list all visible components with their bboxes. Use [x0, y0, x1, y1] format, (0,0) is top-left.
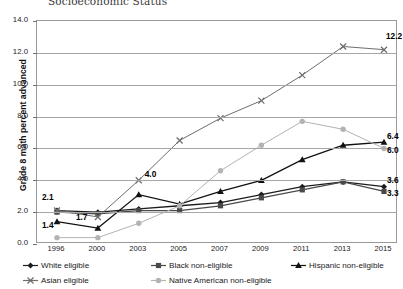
y-axis-ticks: 14.012.010.08.06.04.02.00.0 — [2, 0, 28, 289]
legend-label: Asian eligible — [39, 276, 89, 285]
data-value-label: 4.0 — [145, 169, 157, 179]
x-tick-label: 2000 — [75, 244, 119, 253]
triangle-marker — [54, 218, 61, 224]
series-white-eligible — [54, 179, 387, 215]
plot-area — [36, 20, 397, 243]
legend-label: Black non-eligible — [167, 261, 232, 270]
y-tick-label: 2.0 — [2, 206, 28, 215]
x-icon — [22, 275, 39, 286]
data-value-label: 1.4 — [42, 220, 54, 230]
circle-marker — [177, 203, 182, 208]
gridline — [37, 212, 396, 213]
square-marker — [259, 195, 264, 200]
x-tick-label: 2003 — [116, 244, 160, 253]
data-value-label: 3.6 — [387, 175, 399, 185]
triangle-marker — [135, 191, 142, 197]
diamond-icon — [22, 260, 39, 271]
square-marker — [156, 262, 161, 267]
legend-label: Native American non-eligible — [167, 276, 272, 285]
gridline — [37, 85, 396, 86]
x-axis-ticks: 199620002003200520072009201120132015 — [36, 244, 397, 258]
square-marker — [300, 187, 305, 192]
x-marker — [258, 98, 264, 104]
x-tick-label: 2007 — [198, 244, 242, 253]
x-tick-label: 2013 — [320, 244, 364, 253]
y-tick-label: 4.0 — [2, 174, 28, 183]
y-tick-label: 12.0 — [2, 47, 28, 56]
circle-marker — [259, 143, 264, 148]
x-tick-label: 2009 — [238, 244, 282, 253]
diamond-marker — [28, 262, 34, 268]
series-layer — [37, 21, 398, 244]
chart-root: Socioeconomic Status Grade 8 math percen… — [0, 0, 403, 289]
y-tickmark — [33, 21, 37, 22]
legend-item-black-non-eligible[interactable]: Black non-eligible — [150, 259, 232, 271]
data-value-label: 12.2 — [386, 31, 402, 41]
y-tick-label: 14.0 — [2, 15, 28, 24]
triangle-icon — [290, 260, 307, 271]
chart-legend: White eligibleBlack non-eligibleHispanic… — [0, 259, 403, 289]
x-tick-label: 2011 — [279, 244, 323, 253]
circle-marker — [95, 235, 100, 240]
circle-marker — [218, 168, 223, 173]
y-tick-label: 8.0 — [2, 111, 28, 120]
circle-icon — [150, 275, 167, 286]
x-tick-label: 1996 — [34, 244, 78, 253]
x-marker — [299, 72, 305, 78]
y-tickmark — [33, 180, 37, 181]
circle-marker — [300, 119, 305, 124]
y-tick-label: 6.0 — [2, 142, 28, 151]
circle-marker — [136, 221, 141, 226]
legend-item-native-american-non-eligible[interactable]: Native American non-eligible — [150, 274, 272, 286]
data-value-label: 2.1 — [42, 192, 54, 202]
legend-item-hispanic-non-eligible[interactable]: Hispanic non-eligible — [290, 259, 384, 271]
series-hispanic-non-eligible — [54, 139, 388, 231]
y-tick-label: 0.0 — [2, 238, 28, 247]
circle-marker — [340, 127, 345, 132]
data-value-label: 6.4 — [387, 131, 399, 141]
y-tickmark — [33, 85, 37, 86]
circle-marker — [54, 235, 59, 240]
data-value-label: 1.7 — [76, 212, 88, 222]
x-tick-label: 2015 — [361, 244, 403, 253]
square-icon — [150, 260, 167, 271]
gridline — [37, 53, 396, 54]
data-value-label: 3.3 — [387, 188, 399, 198]
circle-marker — [156, 277, 161, 282]
y-tickmark — [33, 212, 37, 213]
y-tickmark — [33, 53, 37, 54]
x-tick-label: 2005 — [157, 244, 201, 253]
y-tickmark — [33, 148, 37, 149]
gridline — [37, 148, 396, 149]
legend-item-white-eligible[interactable]: White eligible — [22, 259, 89, 271]
y-tickmark — [33, 117, 37, 118]
square-marker — [381, 189, 386, 194]
data-value-label: 6.0 — [387, 145, 399, 155]
legend-label: Hispanic non-eligible — [307, 261, 384, 270]
gridline — [37, 117, 396, 118]
chart-title: Socioeconomic Status — [48, 0, 348, 7]
legend-item-asian-eligible[interactable]: Asian eligible — [22, 274, 89, 286]
x-marker — [177, 137, 183, 143]
y-tick-label: 10.0 — [2, 79, 28, 88]
gridline — [37, 180, 396, 181]
square-marker — [218, 203, 223, 208]
legend-label: White eligible — [39, 261, 89, 270]
